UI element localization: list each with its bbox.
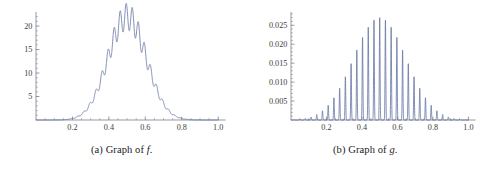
y-tick-label: 0.005 — [268, 97, 286, 106]
plot-area-g: 0.20.40.60.81.00.0050.0100.0150.0200.025 — [244, 0, 487, 142]
caption-b-prefix: (b) Graph of — [333, 144, 389, 155]
figure-row: 0.20.40.60.81.05101520 (a) Graph of f. 0… — [0, 0, 487, 174]
chart-graph-g: 0.20.40.60.81.00.0050.0100.0150.0200.025 — [244, 0, 487, 142]
plot-area-f: 0.20.40.60.81.05101520 — [0, 0, 244, 142]
x-tick-label: 0.8 — [427, 123, 437, 132]
x-tick-label: 0.6 — [140, 123, 150, 132]
caption-b-suffix: . — [395, 144, 398, 155]
caption-b: (b) Graph of g. — [333, 143, 398, 156]
y-tick-label: 20 — [24, 22, 32, 31]
y-tick-label: 0.025 — [268, 21, 286, 30]
y-tick-label: 10 — [24, 69, 32, 78]
y-tick-label: 0.015 — [268, 59, 286, 68]
figure-panel-a: 0.20.40.60.81.05101520 (a) Graph of f. — [0, 0, 244, 174]
caption-a: (a) Graph of f. — [91, 143, 153, 156]
x-tick-label: 0.2 — [321, 123, 331, 132]
curve-graph-g — [291, 18, 468, 120]
y-tick-label: 0.020 — [268, 40, 286, 49]
chart-graph-f: 0.20.40.60.81.05101520 — [0, 0, 244, 142]
x-tick-label: 0.6 — [392, 123, 402, 132]
x-tick-label: 0.8 — [177, 123, 187, 132]
curve-graph-f — [36, 3, 218, 120]
caption-a-suffix: . — [150, 144, 153, 155]
caption-a-prefix: (a) Graph of — [91, 144, 147, 155]
figure-panel-b: 0.20.40.60.81.00.0050.0100.0150.0200.025… — [244, 0, 487, 174]
x-tick-label: 1.0 — [463, 123, 473, 132]
x-tick-label: 0.4 — [356, 123, 366, 132]
x-tick-label: 1.0 — [213, 123, 223, 132]
y-tick-label: 15 — [24, 45, 32, 54]
y-tick-label: 0.010 — [268, 78, 286, 87]
x-tick-label: 0.4 — [104, 123, 114, 132]
y-tick-label: 5 — [28, 92, 32, 101]
x-tick-label: 0.2 — [67, 123, 77, 132]
